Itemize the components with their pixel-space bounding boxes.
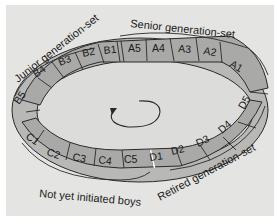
segment-C4: C4 xyxy=(98,153,113,167)
segment-A5: A5 xyxy=(128,42,141,54)
segment-D1: D1 xyxy=(149,149,164,163)
segment-A3: A3 xyxy=(178,42,192,55)
segment-B1: B1 xyxy=(103,43,117,56)
not-yet-initiated-boys-label: Not yet initiated boys xyxy=(39,187,142,208)
generation-ring-diagram: B5 B4 B3 B2 B1 A5 A4 A3 A2 A1 D5 D4 D3 D… xyxy=(0,0,277,224)
segment-A2: A2 xyxy=(203,44,218,58)
segment-A4: A4 xyxy=(152,42,165,54)
segment-C5: C5 xyxy=(124,153,138,165)
senior-generation-label: Senior generation-set xyxy=(130,17,236,40)
